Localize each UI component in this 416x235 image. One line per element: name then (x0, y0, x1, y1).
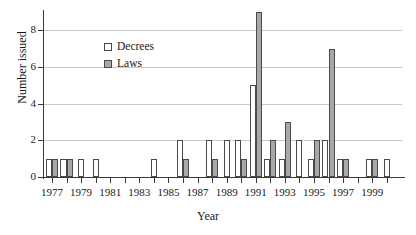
x-tick-1992 (270, 178, 271, 183)
bar-laws-1996 (329, 49, 335, 177)
x-tick-1978 (67, 178, 68, 183)
x-tick-1987 (198, 178, 199, 183)
bar-decrees-1989 (224, 140, 230, 177)
x-tick-1981 (110, 178, 111, 183)
y-tick-label-8: 8 (22, 24, 36, 35)
y-tick-8 (38, 30, 43, 31)
x-tick-label-1995: 1995 (299, 186, 329, 198)
x-tick-1996 (329, 178, 330, 183)
x-tick-1993 (285, 178, 286, 183)
x-tick-label-1977: 1977 (37, 186, 67, 198)
x-tick-label-1979: 1979 (66, 186, 96, 198)
gridline-y-4 (44, 104, 402, 105)
x-tick-1986 (183, 178, 184, 183)
x-tick-1995 (314, 178, 315, 183)
x-tick-label-1987: 1987 (183, 186, 213, 198)
x-tick-1977 (52, 178, 53, 183)
x-tick-1983 (139, 178, 140, 183)
bar-laws-1988 (212, 159, 218, 177)
bar-laws-1978 (67, 159, 73, 177)
x-tick-label-1997: 1997 (328, 186, 358, 198)
x-tick-label-1985: 1985 (153, 186, 183, 198)
x-tick-1991 (256, 178, 257, 183)
gridline-y-6 (44, 67, 402, 68)
bar-laws-1992 (270, 140, 276, 177)
bar-decrees-1994 (296, 140, 302, 177)
bar-decrees-1984 (151, 159, 157, 177)
bar-laws-1995 (314, 140, 320, 177)
x-tick-2000 (387, 178, 388, 183)
chart-legend: Decrees Laws (104, 38, 154, 72)
x-tick-label-1983: 1983 (124, 186, 154, 198)
bar-decrees-1979 (78, 159, 84, 177)
x-tick-1999 (372, 178, 373, 183)
gray-square-swatch-icon (104, 60, 112, 68)
bar-laws-1997 (343, 159, 349, 177)
x-tick-label-1999: 1999 (357, 186, 387, 198)
x-tick-1985 (168, 178, 169, 183)
bar-laws-1986 (183, 159, 189, 177)
x-tick-1998 (358, 178, 359, 183)
gridline-y-8 (44, 30, 402, 31)
x-tick-1994 (299, 178, 300, 183)
x-axis-line (43, 177, 405, 178)
y-tick-label-0: 0 (22, 171, 36, 182)
x-tick-1988 (212, 178, 213, 183)
x-tick-1990 (241, 178, 242, 183)
legend-label-laws: Laws (117, 55, 142, 72)
bar-decrees-1980 (93, 159, 99, 177)
bar-decrees-2000 (384, 159, 390, 177)
x-tick-1979 (81, 178, 82, 183)
y-tick-4 (38, 104, 43, 105)
y-tick-label-6: 6 (22, 61, 36, 72)
x-tick-1980 (96, 178, 97, 183)
x-tick-label-1981: 1981 (95, 186, 125, 198)
y-tick-6 (38, 67, 43, 68)
x-tick-label-1989: 1989 (212, 186, 242, 198)
x-axis-title: Year (0, 209, 416, 224)
white-square-swatch-icon (104, 43, 112, 51)
y-tick-2 (38, 140, 43, 141)
plot-area (44, 12, 402, 177)
x-tick-label-1991: 1991 (241, 186, 271, 198)
bar-laws-1990 (241, 159, 247, 177)
bar-laws-1993 (285, 122, 291, 177)
bar-laws-1999 (372, 159, 378, 177)
x-tick-1989 (227, 178, 228, 183)
bar-laws-1977 (52, 159, 58, 177)
y-tick-label-2: 2 (22, 134, 36, 145)
legend-item-laws: Laws (104, 55, 154, 72)
bar-laws-1991 (256, 12, 262, 177)
x-tick-1982 (125, 178, 126, 183)
y-tick-0 (38, 177, 43, 178)
x-tick-1997 (343, 178, 344, 183)
bar-chart: Number issued 02468 19771979198119831985… (0, 0, 416, 235)
x-tick-1984 (154, 178, 155, 183)
x-tick-label-1993: 1993 (270, 186, 300, 198)
y-tick-label-4: 4 (22, 98, 36, 109)
legend-label-decrees: Decrees (117, 38, 154, 55)
legend-item-decrees: Decrees (104, 38, 154, 55)
